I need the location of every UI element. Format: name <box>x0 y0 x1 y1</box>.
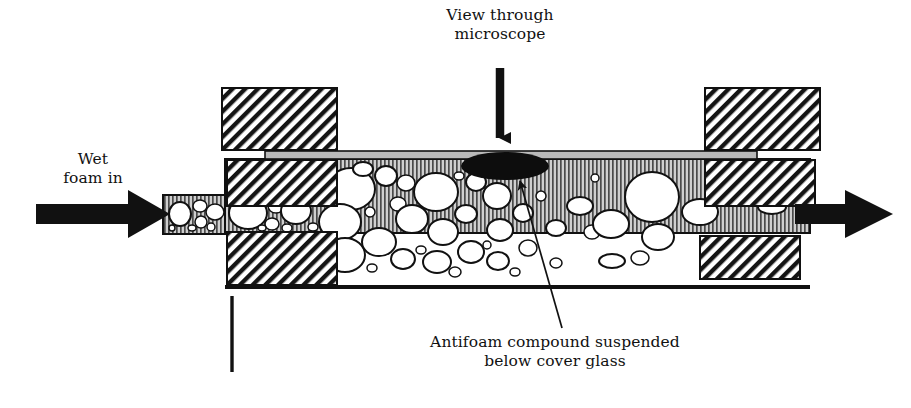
bubble <box>642 224 674 250</box>
bubble <box>487 219 513 241</box>
clamp-block-mid-left <box>227 160 337 206</box>
bubble <box>550 258 562 268</box>
bubble <box>536 191 546 201</box>
bubble <box>423 251 451 273</box>
bubble <box>599 254 625 268</box>
inlet-arrow <box>36 190 170 238</box>
bubble <box>362 228 396 256</box>
bubble <box>282 224 292 232</box>
bubble <box>207 223 215 231</box>
diagram-canvas: View through microscope Wet foam in Anti… <box>0 0 911 408</box>
bubble <box>591 174 599 182</box>
bubble <box>458 241 484 263</box>
bubble <box>625 172 679 222</box>
bubble <box>519 240 537 256</box>
bubble <box>428 219 458 245</box>
bubble <box>449 267 461 277</box>
bubble <box>455 205 477 223</box>
bubble <box>375 166 397 186</box>
bubble <box>593 210 629 238</box>
clamp-block-top-left <box>222 88 337 150</box>
bubble <box>365 207 375 217</box>
bubble <box>487 252 509 270</box>
bubble <box>265 218 279 230</box>
clamp-block-bottom-left <box>227 232 337 285</box>
bubble <box>193 200 207 212</box>
bubble <box>483 183 511 209</box>
bubble <box>414 173 458 211</box>
bubble <box>454 172 464 180</box>
bubble <box>258 225 266 231</box>
bubble <box>397 175 415 191</box>
bubble <box>367 264 377 272</box>
clamp-block-bottom-right <box>700 236 800 279</box>
flow-cell-illustration <box>0 0 911 408</box>
bubble <box>188 225 196 231</box>
bubble <box>169 225 175 231</box>
antifoam-blob <box>461 152 549 180</box>
bubble <box>308 223 318 231</box>
bubble <box>391 249 415 269</box>
bubble <box>510 268 520 276</box>
bubble <box>396 205 428 233</box>
cell-baseline <box>225 285 810 289</box>
bubble <box>206 204 224 220</box>
bubble <box>353 162 373 176</box>
bubble <box>169 202 191 226</box>
bubble <box>546 220 566 236</box>
bubble <box>631 251 649 265</box>
clamp-block-mid-right <box>705 160 815 206</box>
bubble <box>195 216 207 228</box>
clamp-block-top-right <box>705 88 820 150</box>
bubble <box>483 241 491 249</box>
bubble <box>567 197 593 215</box>
bubble <box>416 246 426 254</box>
